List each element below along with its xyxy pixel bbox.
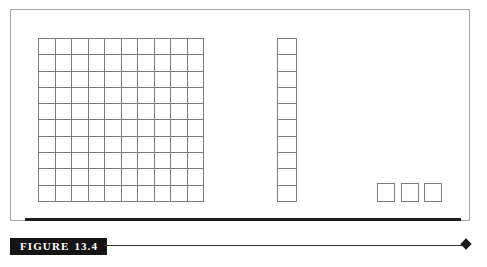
unit-cell <box>278 120 297 136</box>
unit-cell <box>278 104 297 120</box>
ones-cube <box>401 183 419 202</box>
unit-cell <box>155 186 172 202</box>
unit-cell <box>56 39 73 55</box>
unit-cell <box>188 169 205 185</box>
unit-cell <box>138 104 155 120</box>
unit-cell <box>188 55 205 71</box>
unit-cell <box>155 72 172 88</box>
unit-cell <box>56 55 73 71</box>
unit-cell <box>39 169 56 185</box>
unit-cell <box>89 169 106 185</box>
unit-cell <box>89 120 106 136</box>
unit-cell <box>138 169 155 185</box>
figure-page: FIGURE 13.4 <box>0 0 487 267</box>
unit-cell <box>171 88 188 104</box>
unit-cell <box>105 120 122 136</box>
ones-cube <box>377 183 395 202</box>
unit-cell <box>89 137 106 153</box>
unit-cell <box>188 186 205 202</box>
unit-cell <box>56 169 73 185</box>
unit-cell <box>171 104 188 120</box>
unit-cell <box>105 55 122 71</box>
unit-cell <box>56 186 73 202</box>
unit-cell <box>122 186 139 202</box>
unit-cell <box>122 72 139 88</box>
unit-cell <box>105 186 122 202</box>
hundreds-flat-block <box>38 38 204 202</box>
unit-cell <box>39 55 56 71</box>
unit-cell <box>72 39 89 55</box>
unit-cell <box>56 153 73 169</box>
unit-cell <box>171 72 188 88</box>
unit-cell <box>188 88 205 104</box>
figure-caption-number: 13.4 <box>74 238 98 255</box>
unit-cell <box>155 55 172 71</box>
unit-cell <box>105 169 122 185</box>
unit-cell <box>138 39 155 55</box>
unit-cell <box>56 88 73 104</box>
unit-cell <box>39 186 56 202</box>
unit-cell <box>278 39 297 55</box>
unit-cell <box>138 137 155 153</box>
unit-cell <box>89 153 106 169</box>
unit-cell <box>72 72 89 88</box>
unit-cell <box>138 72 155 88</box>
unit-cell <box>72 120 89 136</box>
unit-cell <box>278 72 297 88</box>
unit-cell <box>155 120 172 136</box>
unit-cell <box>105 137 122 153</box>
unit-cell <box>72 137 89 153</box>
unit-cell <box>278 153 297 169</box>
caption-divider-rule <box>25 218 461 221</box>
unit-cell <box>89 88 106 104</box>
unit-cell <box>138 153 155 169</box>
unit-cell <box>122 120 139 136</box>
unit-cell <box>278 186 297 202</box>
unit-cell <box>56 120 73 136</box>
unit-cell <box>155 88 172 104</box>
unit-cell <box>105 39 122 55</box>
unit-cell <box>122 153 139 169</box>
unit-cell <box>122 39 139 55</box>
unit-cell <box>72 186 89 202</box>
unit-cell <box>72 104 89 120</box>
unit-cell <box>105 88 122 104</box>
figure-caption-band: FIGURE 13.4 <box>10 238 107 255</box>
unit-cell <box>155 104 172 120</box>
unit-cell <box>39 39 56 55</box>
unit-cell <box>105 153 122 169</box>
unit-cell <box>171 186 188 202</box>
unit-cell <box>138 120 155 136</box>
unit-cell <box>188 137 205 153</box>
unit-cell <box>171 137 188 153</box>
unit-cell <box>138 88 155 104</box>
unit-cell <box>138 55 155 71</box>
unit-cell <box>105 72 122 88</box>
tens-rod-block <box>277 38 297 202</box>
unit-cell <box>122 104 139 120</box>
unit-cell <box>122 169 139 185</box>
unit-cell <box>72 55 89 71</box>
unit-cell <box>89 104 106 120</box>
unit-cell <box>72 169 89 185</box>
unit-cell <box>188 39 205 55</box>
unit-cell <box>188 104 205 120</box>
unit-cell <box>278 55 297 71</box>
ones-cube <box>424 183 442 202</box>
unit-cell <box>278 88 297 104</box>
unit-cell <box>39 153 56 169</box>
unit-cell <box>138 186 155 202</box>
unit-cell <box>72 88 89 104</box>
unit-cell <box>89 39 106 55</box>
unit-cell <box>278 169 297 185</box>
unit-cell <box>122 55 139 71</box>
unit-cell <box>171 55 188 71</box>
unit-cell <box>39 104 56 120</box>
unit-cell <box>171 169 188 185</box>
unit-cell <box>56 104 73 120</box>
unit-cell <box>56 137 73 153</box>
caption-tail-rule <box>104 245 466 246</box>
figure-caption-label: FIGURE <box>20 238 69 255</box>
unit-cell <box>39 137 56 153</box>
unit-cell <box>155 137 172 153</box>
